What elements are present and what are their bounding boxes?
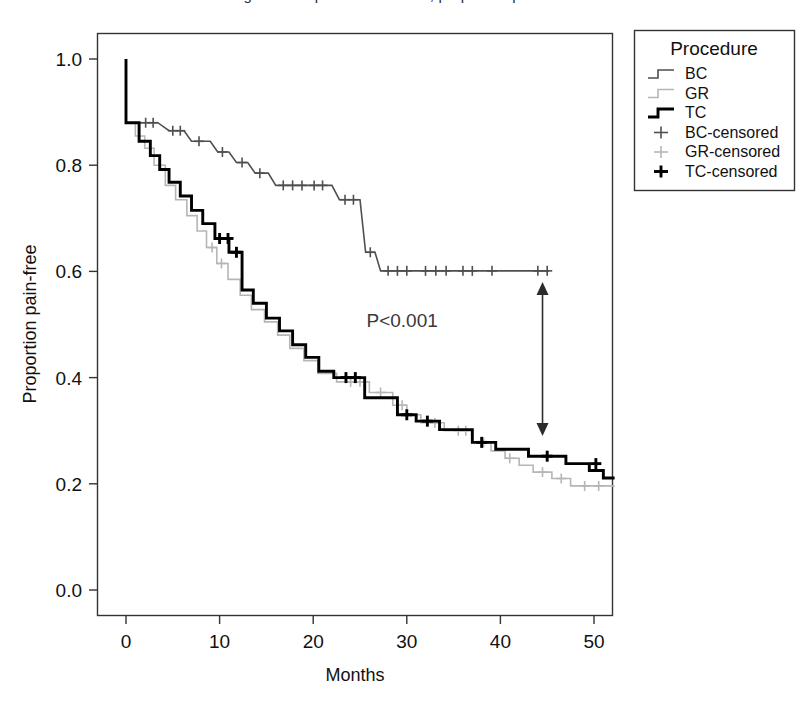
censor-mark <box>421 266 431 276</box>
legend-entry-tc-censored[interactable]: TC-censored <box>654 163 777 180</box>
censor-mark <box>231 247 242 258</box>
censor-mark <box>383 266 393 276</box>
censor-mark <box>505 453 515 463</box>
annotation-layer: P<0.001 <box>366 282 548 436</box>
p-value-annotation: P<0.001 <box>366 310 437 331</box>
y-axis-ticks: 0.00.20.40.60.81.0 <box>56 49 97 601</box>
legend: Procedure BCGRTCBC-censoredGR-censoredTC… <box>635 31 795 191</box>
censor-mark <box>365 247 375 257</box>
censor-mark <box>217 147 227 157</box>
y-tick-label: 1.0 <box>56 49 82 70</box>
arrow-head-top <box>537 282 549 295</box>
x-tick-label: 20 <box>303 631 324 652</box>
legend-label: GR <box>685 85 709 102</box>
censor-mark <box>542 451 553 462</box>
censor-mark <box>533 266 543 276</box>
legend-label: TC-censored <box>685 163 777 180</box>
censor-mark <box>223 233 234 244</box>
censor-mark <box>431 266 441 276</box>
curve-bc <box>126 59 549 271</box>
legend-entry-tc[interactable]: TC <box>648 104 706 121</box>
legend-title: Procedure <box>670 38 758 59</box>
y-tick-label: 0.6 <box>56 261 82 282</box>
censor-mark <box>194 136 204 146</box>
censor-mark <box>542 266 552 276</box>
censor-mark <box>467 266 477 276</box>
legend-entry-bc[interactable]: BC <box>648 65 707 82</box>
censor-mark <box>458 266 468 276</box>
km-plot: 0.00.20.40.60.81.0 01020304050 Proportio… <box>0 0 804 712</box>
censor-mark <box>207 243 217 253</box>
legend-label: BC <box>685 65 707 82</box>
censor-mark <box>376 387 386 397</box>
censor-mark <box>237 158 247 168</box>
censor-mark <box>401 409 412 420</box>
censor-mark <box>580 481 590 491</box>
series-tc <box>126 59 615 478</box>
censor-mark <box>175 126 185 136</box>
x-tick-label: 40 <box>490 631 511 652</box>
censor-mark <box>487 266 497 276</box>
legend-entries: BCGRTCBC-censoredGR-censoredTC-censored <box>648 65 780 180</box>
arrow-head-bottom <box>537 423 549 436</box>
censor-mark <box>594 481 604 491</box>
censor-mark <box>392 266 402 276</box>
censor-mark <box>148 118 158 128</box>
censor-mark <box>402 266 412 276</box>
y-tick-label: 0.0 <box>56 580 82 601</box>
curve-gr <box>126 59 615 486</box>
y-tick-label: 0.4 <box>56 368 83 389</box>
censor-mark <box>278 180 288 190</box>
legend-label: TC <box>685 104 706 121</box>
legend-key-step <box>648 90 674 98</box>
x-axis-title: Months <box>325 665 384 685</box>
censor-mark <box>288 180 298 190</box>
legend-entry-gr[interactable]: GR <box>648 85 709 102</box>
plot-frame <box>98 34 613 616</box>
censor-mark <box>422 416 433 427</box>
x-tick-label: 30 <box>396 631 417 652</box>
censor-mark <box>216 258 226 268</box>
x-tick-label: 0 <box>121 631 132 652</box>
y-axis-title: Proportion pain-free <box>20 244 40 403</box>
censor-mark <box>476 437 487 448</box>
censor-mark <box>255 168 265 178</box>
curve-tc <box>126 59 615 478</box>
x-tick-label: 10 <box>209 631 230 652</box>
legend-label: BC-censored <box>685 124 778 141</box>
censor-mark <box>318 180 328 190</box>
x-axis-ticks: 01020304050 <box>121 615 605 652</box>
censor-mark <box>441 266 451 276</box>
censor-mark <box>556 473 566 483</box>
y-tick-label: 0.8 <box>56 155 82 176</box>
legend-label: GR-censored <box>685 143 780 160</box>
censor-mark <box>348 195 358 205</box>
series-bc <box>126 59 552 276</box>
y-tick-label: 0.2 <box>56 474 82 495</box>
figure-container: Figure 2. Kaplan-Meier curve, proportion… <box>0 0 804 712</box>
x-tick-label: 50 <box>583 631 604 652</box>
legend-key-step <box>648 109 674 117</box>
legend-entry-bc-censored[interactable]: BC-censored <box>654 124 778 141</box>
difference-arrow <box>537 282 549 436</box>
censor-mark <box>590 458 601 469</box>
censor-mark <box>297 180 307 190</box>
legend-key-step <box>648 70 674 78</box>
censor-mark <box>538 467 548 477</box>
legend-entry-gr-censored[interactable]: GR-censored <box>654 143 780 160</box>
